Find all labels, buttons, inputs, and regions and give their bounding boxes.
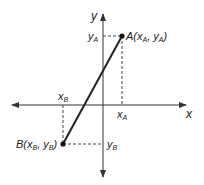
segment-ab bbox=[63, 36, 122, 144]
point-a-label: A(xA, yA) bbox=[125, 30, 167, 43]
xa-label: xA bbox=[116, 108, 128, 121]
point-a bbox=[119, 33, 124, 38]
point-b bbox=[60, 141, 65, 146]
point-b-label: B(xB, yB) bbox=[16, 138, 57, 151]
coordinate-diagram: y x A(xA, yA) B(xB, yB) yA xA xB yB bbox=[0, 0, 204, 185]
x-axis-label: x bbox=[185, 107, 193, 121]
yb-label: yB bbox=[106, 138, 118, 151]
ya-label: yA bbox=[87, 30, 99, 43]
xb-label: xB bbox=[57, 90, 69, 103]
y-axis-label: y bbox=[90, 9, 98, 23]
